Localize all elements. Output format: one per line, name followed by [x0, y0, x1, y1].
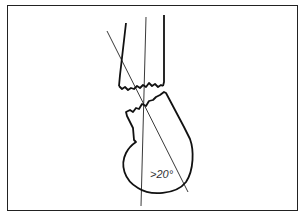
angle-label: >20° — [150, 168, 173, 180]
fracture-diagram — [0, 0, 304, 219]
shaft-axis-line — [141, 17, 146, 206]
humeral-shaft — [119, 15, 164, 90]
